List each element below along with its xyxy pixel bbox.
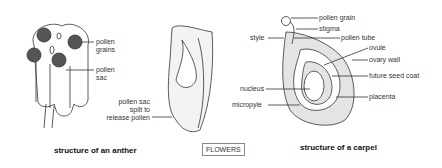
label-micropyle: micropyle: [232, 101, 262, 109]
section-badge: FLOWERS: [202, 143, 245, 156]
anther-illustration: [27, 24, 94, 128]
label-nucleus: nucleus: [240, 85, 264, 93]
label-pollen-sac-line1: pollen: [96, 66, 115, 74]
label-pollen-grains-line2: grains: [96, 46, 115, 54]
label-future-seed-coat: future seed coat: [369, 72, 419, 80]
label-pollen-tube: pollen tube: [341, 34, 375, 42]
label-placenta: placenta: [369, 93, 395, 101]
label-pollen-grain: pollen grain: [319, 14, 355, 22]
label-stigma: stigma: [319, 25, 340, 33]
label-split-line3: release pollen: [90, 114, 150, 122]
split-anther-illustration: [152, 26, 213, 132]
carpel-caption: structure of a carpel: [300, 143, 377, 152]
label-pollen-sac-line2: sac: [96, 74, 107, 82]
label-ovary-wall: ovary wall: [369, 56, 400, 64]
label-ovule: ovule: [369, 44, 386, 52]
carpel-illustration: [266, 17, 368, 126]
label-split-line1: pollen sac: [100, 98, 150, 106]
label-style: style: [250, 34, 264, 42]
label-split-line2: split to: [100, 106, 150, 114]
label-pollen-grains-line1: pollen: [96, 38, 115, 46]
anther-caption: structure of an anther: [54, 146, 137, 155]
